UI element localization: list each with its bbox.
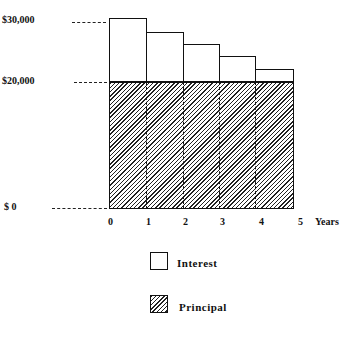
leader-20000: [74, 82, 107, 83]
x-tick-1: 1: [146, 216, 151, 227]
interest-bar-3: [183, 44, 220, 82]
leader-30000: [72, 22, 106, 23]
y-tick-20000: $20,000: [2, 75, 62, 86]
interest-bar-4: [219, 56, 256, 82]
leader-0: [52, 208, 107, 209]
y-tick-0: $ 0: [4, 201, 64, 212]
legend-swatch-principal: [150, 295, 168, 313]
year-divider-3: [219, 82, 220, 209]
interest-bar-1: [109, 18, 147, 82]
legend-label-interest: Interest: [177, 257, 217, 269]
interest-bar-2: [146, 32, 184, 82]
x-tick-2: 2: [183, 216, 188, 227]
legend-label-principal: Principal: [179, 301, 227, 313]
year-divider-4: [255, 82, 256, 209]
x-axis-unit: Years: [315, 216, 339, 227]
x-tick-0: 0: [108, 216, 113, 227]
legend-swatch-interest: [150, 252, 168, 270]
principal-bars: [109, 82, 294, 209]
year-divider-2: [183, 82, 184, 209]
principal-top-line: [109, 81, 294, 83]
y-tick-30000: $30,000: [2, 14, 62, 25]
year-divider-1: [146, 82, 147, 209]
x-tick-4: 4: [259, 216, 264, 227]
x-tick-3: 3: [220, 216, 225, 227]
x-tick-5: 5: [298, 216, 303, 227]
